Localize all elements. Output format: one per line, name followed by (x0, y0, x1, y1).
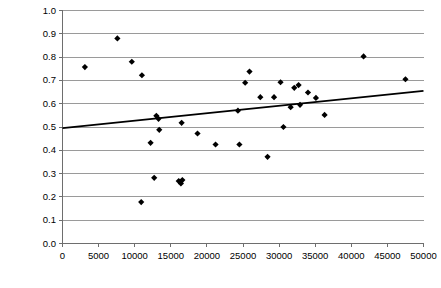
x-tick-label: 50000 (394, 251, 441, 261)
data-point-marker (257, 94, 263, 100)
y-tick-label: 0.8 (18, 52, 56, 62)
data-point-marker (246, 68, 252, 74)
y-tick-label: 0.5 (18, 122, 56, 132)
data-point-marker (321, 112, 327, 118)
data-point-marker (235, 108, 241, 114)
y-tick-label: 0.2 (18, 192, 56, 202)
y-tick-label: 0.1 (18, 215, 56, 225)
data-point-marker (114, 35, 120, 41)
gridlines (63, 11, 424, 221)
data-point-marker (305, 89, 311, 95)
trend-line (63, 91, 424, 128)
data-point-marker (179, 120, 185, 126)
data-point-marker (264, 154, 270, 160)
data-point-marker (402, 76, 408, 82)
y-tick-label: 0.4 (18, 145, 56, 155)
data-point-marker (194, 130, 200, 136)
y-tick-label: 0.0 (18, 239, 56, 249)
data-point-marker (82, 64, 88, 70)
data-point-marker (280, 124, 286, 130)
data-point-marker (139, 72, 145, 78)
data-point-marker (129, 59, 135, 65)
data-point-marker (360, 53, 366, 59)
y-tick-label: 1.0 (18, 6, 56, 16)
data-point-marker (313, 95, 319, 101)
data-point-marker (147, 140, 153, 146)
data-point-marker (151, 175, 157, 181)
y-tick-label: 0.7 (18, 75, 56, 85)
data-point-marker (236, 141, 242, 147)
y-tick-label: 0.9 (18, 29, 56, 39)
y-tick-label: 0.6 (18, 99, 56, 109)
trend-line-segment (63, 91, 424, 128)
x-axis-tick-marks (63, 244, 424, 248)
y-tick-label: 0.3 (18, 169, 56, 179)
data-point-marker (156, 127, 162, 133)
data-point-marker (138, 199, 144, 205)
data-point-marker (212, 141, 218, 147)
data-point-marker (271, 94, 277, 100)
y-axis-tick-marks (59, 11, 63, 244)
